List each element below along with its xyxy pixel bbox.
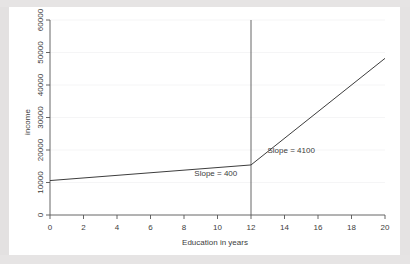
x-tick-label: 0 bbox=[48, 223, 53, 232]
y-tick-label: 40000 bbox=[36, 73, 45, 96]
x-tick-label: 2 bbox=[81, 223, 86, 232]
y-tick-label: 50000 bbox=[36, 41, 45, 64]
x-tick-label: 8 bbox=[182, 223, 187, 232]
chart-canvas: 0100002000030000400005000060000 02468101… bbox=[0, 0, 410, 264]
series-line-piecewise-income-spline bbox=[50, 58, 385, 180]
x-axis-ticks bbox=[50, 215, 385, 219]
x-tick-label: 14 bbox=[280, 223, 289, 232]
y-tick-label-group: 0100002000030000400005000060000 bbox=[36, 8, 45, 217]
y-tick-label: 60000 bbox=[36, 8, 45, 31]
x-axis-title: Education in years bbox=[182, 238, 248, 247]
slope-low-label: Slope = 400 bbox=[194, 169, 237, 178]
figure-root: 0100002000030000400005000060000 02468101… bbox=[0, 0, 410, 264]
x-tick-label: 16 bbox=[314, 223, 323, 232]
y-tick-label: 30000 bbox=[36, 106, 45, 129]
y-axis-title: income bbox=[23, 109, 32, 135]
y-tick-label: 20000 bbox=[36, 138, 45, 161]
y-axis-ticks bbox=[46, 20, 50, 215]
y-tick-label: 0 bbox=[36, 212, 45, 217]
x-tick-label: 12 bbox=[247, 223, 256, 232]
x-tick-label-group: 02468101214161820 bbox=[48, 223, 390, 232]
x-tick-label: 18 bbox=[347, 223, 356, 232]
y-tick-label: 10000 bbox=[36, 171, 45, 194]
x-tick-label: 4 bbox=[115, 223, 120, 232]
x-tick-label: 20 bbox=[381, 223, 390, 232]
gridlines bbox=[50, 20, 385, 183]
slope-high-label: Slope = 4100 bbox=[268, 146, 316, 155]
x-tick-label: 10 bbox=[213, 223, 222, 232]
data-series bbox=[50, 58, 385, 180]
x-tick-label: 6 bbox=[148, 223, 153, 232]
